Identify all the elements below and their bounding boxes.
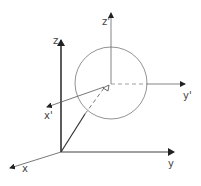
world-x-axis xyxy=(10,152,61,168)
world-x-label: x xyxy=(22,163,28,174)
diagram-canvas: z y x z' y' x' xyxy=(0,0,201,186)
world-y-label: y xyxy=(168,158,174,169)
local-z-label: z' xyxy=(102,16,110,27)
origin-link-solid xyxy=(61,114,85,152)
local-y-label: y' xyxy=(183,90,192,101)
local-x-label: x' xyxy=(44,110,53,121)
local-origin-triangle-icon xyxy=(103,85,109,91)
world-z-label: z xyxy=(53,35,58,46)
